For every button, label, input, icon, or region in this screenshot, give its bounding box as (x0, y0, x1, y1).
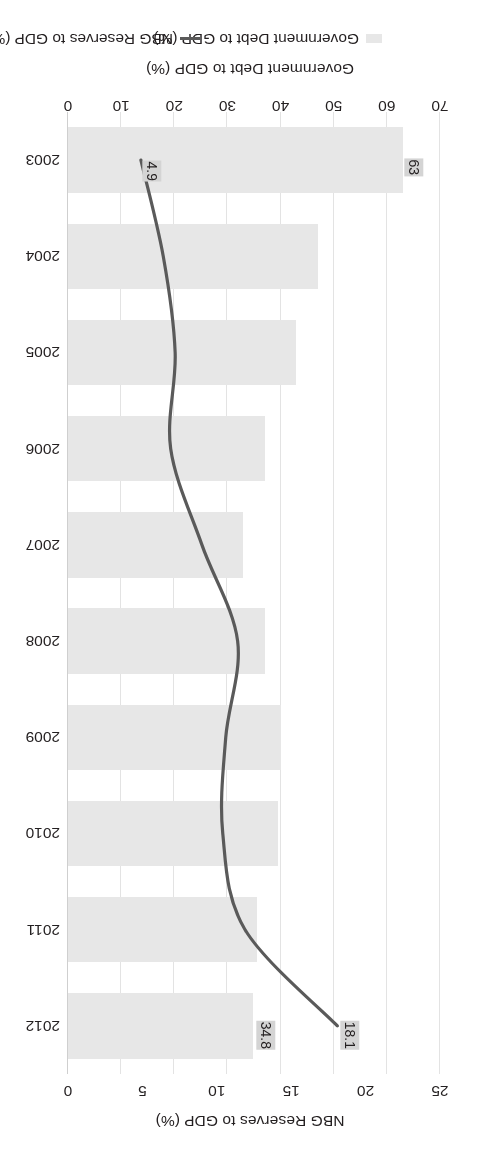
axis-title-nbg-reserves: NBG Reserves to GDP (%) (0, 1112, 500, 1130)
line-series-nbg-reserves (68, 112, 440, 1074)
year-label-2008: 2008 (26, 632, 60, 650)
year-label-2010: 2010 (26, 825, 60, 843)
axis-ticks-nbg-reserves: 0510152025 (0, 1074, 500, 1100)
year-label-2005: 2005 (26, 344, 60, 362)
legend-item-government-debt: Government Debt to GDP (%) (153, 30, 382, 48)
chart-figure: Government Debt to GDP (%) NBG Reserves … (0, 0, 500, 1170)
value-label-reserves-2003: 4.9 (142, 161, 161, 182)
year-label-2003: 2003 (26, 151, 60, 169)
year-label-2004: 2004 (26, 247, 60, 265)
tick-reserves-10: 10 (208, 1082, 225, 1100)
value-label-debt-2012: 34.8 (256, 1021, 275, 1050)
tick-reserves-25: 25 (431, 1082, 448, 1100)
legend-bar-swatch-icon (366, 35, 382, 44)
year-label-2009: 2009 (26, 728, 60, 746)
axis-title-government-debt: Government Debt to GDP (%) (0, 60, 500, 78)
tick-reserves-15: 15 (283, 1082, 300, 1100)
plot-area: 6334.84.918.1 20032004200520062007200820… (68, 112, 440, 1074)
year-label-2012: 2012 (26, 1017, 60, 1035)
legend-item-nbg-reserves: NBG Reserves to GDP (%) (0, 30, 200, 48)
tick-reserves-5: 5 (138, 1082, 147, 1100)
tick-reserves-0: 0 (64, 1082, 73, 1100)
tick-reserves-20: 20 (357, 1082, 374, 1100)
year-label-2011: 2011 (27, 921, 60, 939)
legend-label-government-debt: Government Debt to GDP (%) (153, 30, 359, 48)
legend-line-swatch-icon (180, 38, 200, 41)
legend-label-nbg-reserves: NBG Reserves to GDP (%) (0, 30, 173, 48)
year-label-2006: 2006 (26, 440, 60, 458)
rotated-figure-wrapper: Government Debt to GDP (%) NBG Reserves … (0, 0, 500, 1170)
year-label-2007: 2007 (26, 536, 60, 554)
value-label-debt-2003: 63 (404, 159, 423, 177)
value-label-reserves-2012: 18.1 (341, 1021, 360, 1050)
